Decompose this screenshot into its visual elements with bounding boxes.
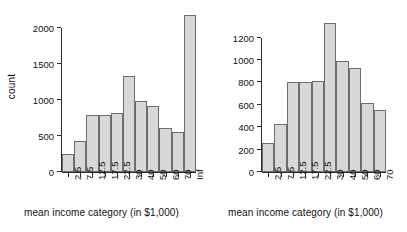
x-tick-label-left-5: 30 [133,169,144,180]
y-tick-label-left-3: 1500 [24,59,54,70]
y-tick-label-right-6: 1200 [224,32,254,43]
y-tick-label-right-0: 0 [224,167,254,178]
x-tick-left-5 [129,173,130,177]
x-tick-label-right-2: 12.5 [297,162,308,181]
y-tick-right-1 [257,149,261,150]
y-tick-right-5 [257,59,261,60]
y-axis-title-left: count [4,0,20,172]
y-tick-label-left-0: 0 [24,167,54,178]
histogram-bar [147,106,159,172]
y-tick-right-0 [257,171,261,172]
x-tick-left-7 [153,173,154,177]
histogram-bar [172,132,184,172]
y-tick-label-right-3: 600 [224,99,254,110]
histogram-bar [324,23,336,172]
x-tick-label-right-9: 70 [384,169,395,180]
x-tick-right-6 [343,173,344,177]
x-tick-left-6 [141,173,142,177]
y-tick-label-left-1: 500 [24,131,54,142]
plot-area-right: 0200400600800100012002.57.512.517.522.53… [262,22,386,172]
x-tick-right-9 [380,173,381,177]
histogram-bar [299,82,311,172]
x-tick-left-1 [80,173,81,177]
x-tick-right-4 [318,173,319,177]
x-tick-left-9 [178,173,179,177]
x-tick-right-2 [293,173,294,177]
histogram-panel-right: 0200400600800100012002.57.512.517.522.53… [204,0,407,232]
x-tick-label-right-4: 22.5 [322,162,333,181]
x-tick-label-left-1: 7.5 [84,167,95,180]
x-tick-label-left-2: 12.5 [96,162,107,181]
x-tick-label-left-9: 70 [182,169,193,180]
y-tick-label-right-4: 800 [224,77,254,88]
x-tick-left-8 [166,173,167,177]
x-tick-label-left-8: 60 [170,169,181,180]
histogram-figure: count 05001000150020002.57.512.517.522.5… [0,0,407,232]
x-tick-label-left-0: 2.5 [72,167,83,180]
x-tick-label-left-4: 22.5 [121,162,132,181]
x-tick-label-left-7: 50 [157,169,168,180]
y-tick-label-right-1: 200 [224,144,254,155]
x-tick-right-3 [305,173,306,177]
x-tick-left-4 [117,173,118,177]
y-tick-right-6 [257,37,261,38]
y-tick-right-2 [257,126,261,127]
histogram-panel-left: count 05001000150020002.57.512.517.522.5… [0,0,203,232]
x-tick-label-left-6: 40 [145,169,156,180]
x-tick-right-5 [330,173,331,177]
histogram-bar [135,101,147,172]
x-axis-title-left: mean income category (in $1,000) [0,207,203,218]
histogram-bar [374,110,386,172]
histogram-bar [184,15,196,172]
histogram-bar [123,76,135,172]
histogram-bar [336,61,348,172]
y-tick-label-right-5: 1000 [224,55,254,66]
histogram-bar [274,124,286,172]
y-tick-label-left-2: 1000 [24,95,54,106]
plot-area-left: 05001000150020002.57.512.517.522.5304050… [62,14,196,172]
histogram-bar [287,82,299,172]
y-tick-left-3 [57,63,61,64]
x-tick-right-0 [268,173,269,177]
histogram-bar [361,103,373,172]
y-tick-left-2 [57,99,61,100]
histogram-bar [312,81,324,172]
x-tick-label-right-3: 17.5 [309,162,320,181]
y-axis-line-left [61,28,62,172]
x-tick-left-3 [105,173,106,177]
y-tick-left-0 [57,171,61,172]
y-tick-right-4 [257,81,261,82]
x-tick-left-0 [68,173,69,177]
y-tick-label-right-2: 400 [224,122,254,133]
y-tick-label-left-4: 2000 [24,23,54,34]
histogram-bar [349,68,361,172]
x-axis-title-right: mean income category (in $1,000) [204,207,407,218]
x-tick-left-10 [190,173,191,177]
x-tick-right-8 [367,173,368,177]
y-tick-left-1 [57,135,61,136]
x-tick-right-7 [355,173,356,177]
y-tick-right-3 [257,104,261,105]
x-tick-label-left-3: 17.5 [109,162,120,181]
x-tick-right-1 [281,173,282,177]
histogram-bar [159,128,171,172]
x-tick-left-2 [92,173,93,177]
y-tick-left-4 [57,27,61,28]
